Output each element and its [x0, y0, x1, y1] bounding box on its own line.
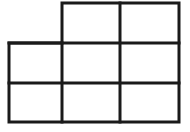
grid-cell-r3c1 [9, 83, 62, 122]
grid-cell-r2c2 [62, 43, 120, 83]
grid-cell-r1c3 [120, 3, 179, 43]
grid-cell-r2c1 [9, 43, 62, 83]
grid-diagram [0, 0, 190, 132]
grid-cell-r2c3 [120, 43, 179, 83]
grid-cell-r3c2 [62, 83, 120, 122]
grid-cell-r1c2 [62, 3, 120, 43]
grid-cell-r3c3 [120, 83, 179, 122]
figure-canvas [0, 0, 190, 132]
